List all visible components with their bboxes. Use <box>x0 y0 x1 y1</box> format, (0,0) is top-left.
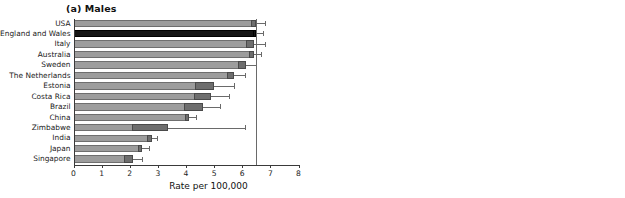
bar <box>74 93 212 100</box>
error-bar-cap-upper <box>229 94 230 99</box>
category-label: USA <box>55 19 70 29</box>
error-bar-cap-upper <box>245 125 246 130</box>
x-axis-tick <box>299 165 300 168</box>
x-axis-tick-label: 8 <box>296 169 301 178</box>
bar <box>74 135 152 142</box>
bar-row: Costa Rica <box>74 92 299 102</box>
bar <box>74 145 142 152</box>
category-label: The Netherlands <box>9 71 70 81</box>
confidence-interval-box <box>227 72 235 79</box>
error-bar-cap-upper <box>220 104 221 109</box>
y-axis-line <box>74 19 75 167</box>
bar-row: China <box>74 113 299 123</box>
error-bar-cap-upper <box>263 31 264 36</box>
category-label: Brazil <box>50 102 71 112</box>
bar-highlighted <box>74 30 257 37</box>
bar <box>74 72 235 79</box>
bar <box>74 114 190 121</box>
confidence-interval-box <box>147 135 152 142</box>
category-label: Estonia <box>43 81 70 91</box>
confidence-interval-box <box>195 82 214 89</box>
confidence-interval-box <box>185 114 190 121</box>
category-label: Singapore <box>33 154 70 164</box>
bar-row: Australia <box>74 50 299 60</box>
bar-rows-males: USAEngland and WalesItalyAustraliaSweden… <box>74 19 299 165</box>
bar-row: Brazil <box>74 102 299 112</box>
x-axis-tick <box>214 165 215 168</box>
confidence-interval-box <box>132 124 168 131</box>
error-bar-cap-upper <box>196 115 197 120</box>
figure-two-panel-bar-chart: (a) Males USAEngland and WalesItalyAustr… <box>0 0 625 198</box>
bar-row: USA <box>74 19 299 29</box>
category-label: Costa Rica <box>31 92 70 102</box>
category-label: Zimbabwe <box>32 123 71 133</box>
x-axis-tick <box>186 165 187 168</box>
bar-row: Italy <box>74 39 299 49</box>
bar-row: Estonia <box>74 81 299 91</box>
panel-females: (b) Females USAEngland and WalesItalyAus… <box>312 0 625 198</box>
bar-row: England and Wales <box>74 29 299 39</box>
category-label: Sweden <box>41 60 70 70</box>
bar-row: The Netherlands <box>74 71 299 81</box>
bar <box>74 61 247 68</box>
bar <box>74 40 255 47</box>
x-axis-tick-label: 0 <box>71 169 76 178</box>
confidence-interval-box <box>138 145 141 152</box>
bar-row: Japan <box>74 144 299 154</box>
x-axis-tick <box>158 165 159 168</box>
category-label: Italy <box>54 39 70 49</box>
panel-males: (a) Males USAEngland and WalesItalyAustr… <box>0 0 312 198</box>
bar <box>74 51 254 58</box>
confidence-interval-box <box>238 61 246 68</box>
x-axis-tick-label: 2 <box>127 169 132 178</box>
x-axis-tick <box>130 165 131 168</box>
error-bar-cap-upper <box>265 42 266 47</box>
plot-area-males: USAEngland and WalesItalyAustraliaSweden… <box>74 19 299 165</box>
bar <box>74 20 257 27</box>
confidence-interval-box <box>246 40 254 47</box>
error-bar-cap-upper <box>265 21 266 26</box>
category-label: China <box>49 113 70 123</box>
x-axis-tick <box>102 165 103 168</box>
x-axis-tick <box>242 165 243 168</box>
x-axis-title: Rate per 100,000 <box>169 181 248 191</box>
error-bar-cap-upper <box>142 157 143 162</box>
panel-title-males: (a) Males <box>66 3 117 14</box>
category-label: England and Wales <box>0 29 70 39</box>
category-label: India <box>52 133 70 143</box>
bar-row: Singapore <box>74 154 299 164</box>
x-axis-tick-label: 6 <box>240 169 245 178</box>
x-axis-tick <box>74 165 75 168</box>
category-label: Australia <box>38 50 71 60</box>
x-axis-tick <box>270 165 271 168</box>
confidence-interval-box <box>194 93 211 100</box>
x-axis-tick-label: 3 <box>155 169 160 178</box>
error-bar-cap-upper <box>149 146 150 151</box>
x-axis-tick-label: 1 <box>99 169 104 178</box>
confidence-interval-box <box>124 155 133 162</box>
error-bar-cap-upper <box>245 73 246 78</box>
x-axis-tick-label: 5 <box>212 169 217 178</box>
confidence-interval-box <box>184 103 203 110</box>
x-axis-tick-label: 7 <box>268 169 273 178</box>
bar-row: Sweden <box>74 60 299 70</box>
reference-line <box>256 19 257 167</box>
x-axis-tick-label: 4 <box>184 169 189 178</box>
category-label: Japan <box>50 144 71 154</box>
error-bar-cap-upper <box>234 83 235 88</box>
confidence-interval-box <box>249 51 253 58</box>
bar-row: Zimbabwe <box>74 123 299 133</box>
error-bar-cap-upper <box>261 52 262 57</box>
bar <box>74 82 215 89</box>
error-bar-cap-upper <box>157 136 158 141</box>
bar-row: India <box>74 133 299 143</box>
